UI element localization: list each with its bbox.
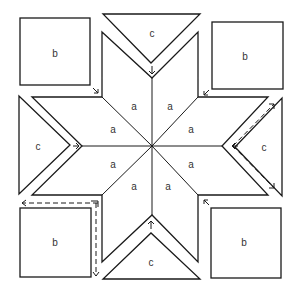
arrow-top-right-square xyxy=(204,90,209,95)
triangle-label-top: c xyxy=(150,28,155,39)
diamond-label-3: a xyxy=(110,124,116,135)
triangle-label-left: c xyxy=(36,141,41,152)
triangle-label-bottom: c xyxy=(149,257,154,268)
square-label-top-left: b xyxy=(52,48,58,59)
diamond-label-5: a xyxy=(110,159,116,170)
square-label-bottom-left: b xyxy=(52,237,58,248)
arrow-left-triangle xyxy=(73,143,79,149)
quilt-block-diagram: a a a a a a a a b b b b c c c c xyxy=(0,0,298,294)
diamond-label-8: a xyxy=(165,181,171,192)
square-label-bottom-right: b xyxy=(241,237,247,248)
diamond-label-1: a xyxy=(131,101,137,112)
arrow-bottom-triangle xyxy=(148,221,154,229)
diamond-label-2: a xyxy=(167,101,173,112)
arrow-top-triangle xyxy=(149,66,155,74)
diamond-label-7: a xyxy=(131,181,137,192)
diamond-label-4: a xyxy=(188,124,194,135)
diamond-label-6: a xyxy=(188,159,194,170)
arrow-bottom-right-square xyxy=(204,200,209,205)
square-label-top-right: b xyxy=(242,51,248,62)
triangle-label-right: c xyxy=(262,142,267,153)
arrow-top-left-square xyxy=(93,88,98,93)
